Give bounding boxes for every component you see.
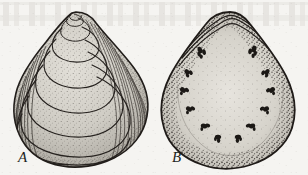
specimen-label-b: B — [172, 150, 181, 165]
specimen-label-a: A — [18, 150, 27, 165]
figure-plate: A B — [0, 0, 308, 175]
specimen-a-exterior — [6, 6, 156, 172]
specimen-b-interior — [156, 6, 304, 172]
